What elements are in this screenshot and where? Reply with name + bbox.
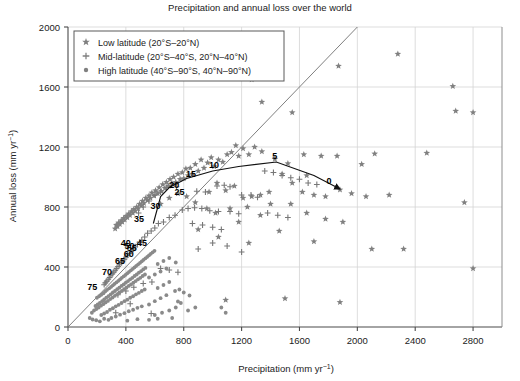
y-tick-label: 1200 bbox=[39, 142, 60, 153]
precipitation-annual-loss-scatter-plot: Precipitation and annual loss over the w… bbox=[0, 0, 520, 381]
data-point-circle bbox=[156, 286, 160, 290]
data-point-circle bbox=[114, 315, 118, 319]
y-tick-label: 1600 bbox=[39, 82, 60, 93]
data-point-circle bbox=[118, 313, 122, 317]
data-point-circle bbox=[153, 299, 157, 303]
x-tick-label: 400 bbox=[118, 335, 134, 346]
data-point-circle bbox=[123, 311, 127, 315]
y-axis-label: Annual loss (mm yr−1) bbox=[7, 130, 19, 222]
curve-label: 60 bbox=[124, 249, 134, 259]
x-tick-label: 1600 bbox=[289, 335, 310, 346]
data-point-circle bbox=[160, 311, 164, 315]
x-tick-label: 800 bbox=[176, 335, 192, 346]
x-tick-label: 2000 bbox=[347, 335, 368, 346]
data-point-circle bbox=[159, 296, 163, 300]
data-point-circle bbox=[153, 249, 157, 253]
data-point-circle bbox=[102, 317, 106, 321]
data-point-circle bbox=[159, 270, 163, 274]
y-tick-label: 0 bbox=[55, 322, 60, 333]
x-tick-label: 2400 bbox=[405, 335, 426, 346]
curve-label: 65 bbox=[115, 256, 125, 266]
curve-label: 15 bbox=[186, 169, 196, 179]
legend-item-0: Low latitude (20°S–20°N) bbox=[82, 38, 199, 48]
data-point-circle bbox=[136, 317, 140, 321]
data-point-circle bbox=[164, 293, 168, 297]
data-point-circle bbox=[147, 303, 151, 307]
data-point-circle bbox=[98, 319, 102, 323]
y-tick-label: 2000 bbox=[39, 22, 60, 33]
data-point-circle bbox=[143, 266, 147, 270]
data-point-circle bbox=[147, 318, 151, 322]
data-point-circle bbox=[174, 306, 178, 310]
curve-label: 10 bbox=[209, 160, 219, 170]
data-point-circle bbox=[131, 308, 135, 312]
curve-label: 5 bbox=[272, 151, 277, 161]
data-point-circle bbox=[156, 262, 160, 266]
chart-legend: Low latitude (20°S–20°N)Mid-latitude (20… bbox=[74, 31, 284, 81]
data-point-circle bbox=[153, 273, 157, 277]
data-point-circle bbox=[193, 306, 197, 310]
curve-label: 45 bbox=[137, 238, 147, 248]
data-point-circle bbox=[91, 318, 95, 322]
data-point-circle bbox=[147, 276, 151, 280]
legend-item-label: Low latitude (20°S–20°N) bbox=[98, 38, 199, 48]
chart-figure: Precipitation and annual loss over the w… bbox=[0, 0, 520, 381]
data-point-circle bbox=[162, 259, 166, 263]
curve-label: 75 bbox=[87, 282, 97, 292]
x-tick-label: 1200 bbox=[231, 335, 252, 346]
x-tick-label: 2800 bbox=[462, 335, 483, 346]
data-point-circle bbox=[167, 280, 171, 284]
y-tick-label: 400 bbox=[44, 262, 60, 273]
data-point-circle bbox=[188, 294, 192, 298]
data-point-circle bbox=[84, 68, 88, 72]
curve-label: 0 bbox=[327, 176, 332, 186]
data-point-circle bbox=[162, 283, 166, 287]
data-point-circle bbox=[140, 304, 144, 308]
data-point-circle bbox=[156, 317, 160, 321]
x-axis-label: Precipitation (mm yr−1) bbox=[238, 363, 334, 375]
data-point-circle bbox=[153, 313, 157, 317]
data-point-circle bbox=[143, 288, 147, 292]
data-point-circle bbox=[177, 288, 181, 292]
data-point-circle bbox=[186, 309, 190, 313]
y-tick-label: 800 bbox=[44, 202, 60, 213]
curve-label: 35 bbox=[134, 214, 144, 224]
data-point-circle bbox=[170, 316, 174, 320]
data-point-circle bbox=[94, 318, 98, 322]
curve-label: 25 bbox=[174, 187, 184, 197]
data-point-circle bbox=[167, 309, 171, 313]
legend-item-label: Mid-latitude (20°S–40°S, 20°N–40°N) bbox=[98, 52, 247, 62]
curve-label: 30 bbox=[151, 201, 161, 211]
data-point-circle bbox=[224, 311, 228, 315]
data-point-circle bbox=[107, 318, 111, 322]
legend-item-2: High latitude (40°S–90°S, 40°N–90°N) bbox=[84, 66, 251, 76]
data-point-circle bbox=[136, 306, 140, 310]
data-point-circle bbox=[174, 261, 178, 265]
data-point-circle bbox=[219, 306, 223, 310]
data-point-circle bbox=[143, 273, 147, 277]
data-point-circle bbox=[176, 300, 180, 304]
data-point-circle bbox=[167, 256, 171, 260]
data-point-circle bbox=[127, 309, 131, 313]
legend-item-label: High latitude (40°S–90°S, 40°N–90°N) bbox=[98, 66, 251, 76]
data-point-circle bbox=[125, 319, 129, 323]
x-tick-label: 0 bbox=[65, 335, 70, 346]
data-point-circle bbox=[164, 267, 168, 271]
data-point-circle bbox=[182, 291, 186, 295]
curve-label: 70 bbox=[102, 267, 112, 277]
page-title: Precipitation and annual loss over the w… bbox=[168, 2, 352, 13]
data-point-circle bbox=[173, 289, 177, 293]
legend-item-1: Mid-latitude (20°S–40°S, 20°N–40°N) bbox=[83, 52, 248, 62]
